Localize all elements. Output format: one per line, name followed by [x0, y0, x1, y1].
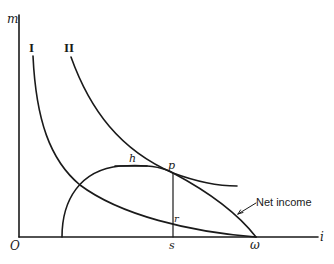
origin-label: O	[10, 240, 20, 252]
y-axis-label: m	[7, 13, 18, 25]
curve-I-label: I	[29, 41, 34, 54]
net-income-leader	[238, 203, 256, 214]
point-r-label: r	[174, 214, 179, 224]
point-p-label: p	[168, 160, 175, 171]
diagram-canvas	[0, 0, 334, 264]
curve-II-label: II	[64, 41, 74, 54]
point-omega-label: ω	[250, 239, 260, 251]
point-s-label: s	[169, 240, 175, 251]
net-income-curve	[62, 165, 256, 237]
point-h-label: h	[129, 153, 136, 164]
x-axis-label: i	[320, 231, 324, 243]
net-income-label: Net income	[256, 197, 312, 208]
